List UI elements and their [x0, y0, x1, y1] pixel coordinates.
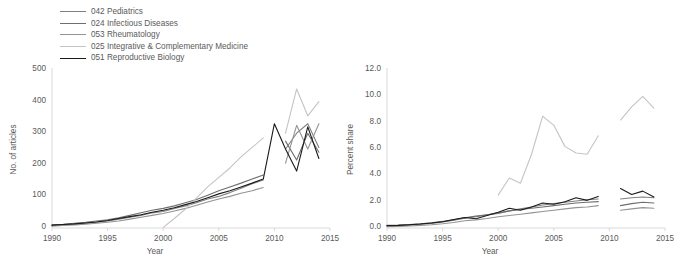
- series-line: [163, 138, 263, 227]
- y-tick-label: 4.0: [345, 169, 381, 178]
- x-tick-label: 2000: [143, 234, 183, 243]
- x-tick-label: 2015: [645, 234, 679, 243]
- y-tick-label: 12.0: [345, 64, 381, 73]
- y-tick-label: 0.0: [345, 222, 381, 231]
- series-line: [498, 116, 598, 195]
- chart-plot-right: [335, 0, 671, 264]
- series-line: [621, 189, 654, 198]
- x-tick-label: 2010: [589, 234, 629, 243]
- series-line: [621, 202, 654, 205]
- x-tick-label: 2010: [254, 234, 294, 243]
- y-tick-label: 10.0: [345, 90, 381, 99]
- x-tick-label: 2005: [534, 234, 574, 243]
- y-tick-label: 2.0: [345, 196, 381, 205]
- y-tick-label: 0: [10, 222, 46, 231]
- y-tick-label: 400: [10, 96, 46, 105]
- series-line: [52, 124, 319, 225]
- chart-panel-articles: No. of articles Year 0100200300400500199…: [0, 0, 336, 264]
- series-line: [52, 188, 263, 227]
- y-tick-label: 500: [10, 64, 46, 73]
- y-tick-label: 6.0: [345, 143, 381, 152]
- series-line: [387, 196, 598, 225]
- series-line: [387, 199, 598, 226]
- x-tick-label: 2000: [478, 234, 518, 243]
- x-tick-label: 1990: [367, 234, 407, 243]
- x-tick-label: 1995: [88, 234, 128, 243]
- y-tick-label: 100: [10, 190, 46, 199]
- series-line: [52, 175, 263, 225]
- y-tick-label: 200: [10, 159, 46, 168]
- chart-plot-left: [0, 0, 336, 264]
- x-tick-label: 1990: [32, 234, 72, 243]
- series-line: [621, 96, 654, 120]
- x-tick-label: 1995: [423, 234, 463, 243]
- series-line: [621, 208, 654, 211]
- y-tick-label: 8.0: [345, 117, 381, 126]
- series-line: [286, 89, 319, 133]
- x-tick-label: 2005: [199, 234, 239, 243]
- y-tick-label: 300: [10, 127, 46, 136]
- chart-panel-share: Percent share Year 0.02.04.06.08.010.012…: [335, 0, 671, 264]
- series-line: [621, 197, 654, 199]
